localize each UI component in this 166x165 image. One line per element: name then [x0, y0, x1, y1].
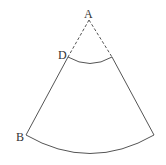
segment-right-side — [112, 57, 154, 135]
label-b: B — [16, 130, 24, 144]
dashed-segment-ad — [68, 20, 89, 57]
label-a: A — [84, 7, 93, 21]
segment-db — [26, 57, 68, 135]
outer-arc — [26, 135, 154, 154]
dashed-segment-a-right — [89, 20, 112, 57]
label-d: D — [58, 48, 67, 62]
inner-arc — [68, 57, 112, 64]
sector-diagram: A D B — [0, 0, 166, 165]
